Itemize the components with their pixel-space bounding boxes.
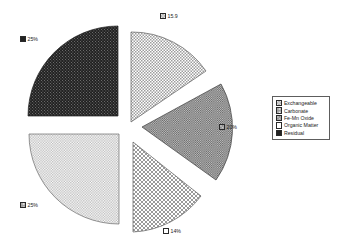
legend-swatch-residual — [276, 130, 282, 136]
legend-item-organic-matter[interactable]: Organic Matter — [276, 122, 327, 129]
slice-label-fe-mn-oxide: 14% — [163, 228, 181, 234]
slice-swatch-residual — [20, 36, 26, 42]
slice-label-organic-matter: 25% — [20, 202, 38, 208]
legend-item-exchangeable[interactable]: Exchangeable — [276, 100, 327, 107]
slice-value-organic-matter: 25% — [28, 202, 38, 208]
slice-value-carbonate: 20% — [227, 124, 237, 130]
slice-swatch-fe-mn-oxide — [163, 228, 169, 234]
legend-label-fe-mn-oxide: Fe-Mn Oxide — [284, 115, 314, 121]
legend-swatch-organic-matter — [276, 122, 282, 128]
legend-swatch-carbonate — [276, 107, 282, 113]
slice-swatch-exchangeable — [160, 13, 166, 19]
legend-item-carbonate[interactable]: Carbonate — [276, 107, 327, 114]
slice-swatch-organic-matter — [20, 202, 26, 208]
legend-swatch-exchangeable — [276, 100, 282, 106]
slice-swatch-carbonate — [219, 124, 225, 130]
legend-swatch-fe-mn-oxide — [276, 115, 282, 121]
legend-label-organic-matter: Organic Matter — [284, 122, 318, 128]
pie-slice-organic-matter[interactable] — [29, 134, 119, 224]
legend-item-fe-mn-oxide[interactable]: Fe-Mn Oxide — [276, 114, 327, 121]
legend-label-carbonate: Carbonate — [284, 108, 308, 114]
legend-item-residual[interactable]: Residual — [276, 129, 327, 136]
slice-value-exchangeable: 15.9 — [168, 13, 178, 19]
chart-legend: Exchangeable Carbonate Fe-Mn Oxide Organ… — [272, 96, 330, 140]
slice-value-residual: 25% — [28, 36, 38, 42]
legend-label-residual: Residual — [284, 130, 304, 136]
slice-label-residual: 25% — [20, 36, 38, 42]
pie-slice-residual[interactable] — [28, 26, 118, 116]
slice-label-exchangeable: 15.9 — [160, 13, 178, 19]
legend-label-exchangeable: Exchangeable — [284, 100, 317, 106]
pie-chart: 25% 25% 15.9 20% 14% Exchangeable Carbon… — [0, 0, 342, 246]
slice-value-fe-mn-oxide: 14% — [171, 228, 181, 234]
slice-label-carbonate: 20% — [219, 124, 237, 130]
